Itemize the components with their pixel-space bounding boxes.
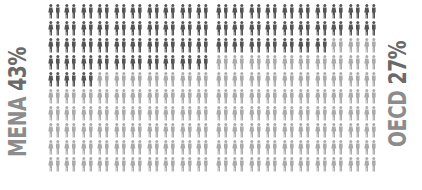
couple-icon: [346, 21, 362, 38]
couple-icon: [346, 123, 362, 140]
couple-icon: [178, 21, 194, 38]
couple-icon: [145, 106, 161, 123]
couple-icon: [112, 89, 128, 106]
couple-icon: [363, 38, 379, 55]
couple-icon: [178, 4, 194, 21]
couple-icon: [162, 89, 178, 106]
couple-icon: [195, 89, 211, 106]
couple-icon: [346, 55, 362, 72]
couple-icon: [330, 72, 346, 89]
couple-icon: [96, 72, 112, 89]
couple-icon: [178, 89, 194, 106]
couple-icon: [79, 72, 95, 89]
couple-icon: [280, 106, 296, 123]
couple-icon: [96, 140, 112, 157]
couple-icon: [280, 38, 296, 55]
couple-icon: [46, 4, 62, 21]
couple-icon: [178, 38, 194, 55]
couple-icon: [231, 123, 247, 140]
couple-icon: [363, 72, 379, 89]
couple-icon: [346, 89, 362, 106]
couple-icon: [330, 157, 346, 174]
couple-icon: [195, 140, 211, 157]
couple-icon: [214, 72, 230, 89]
oecd-percent-text: 27%: [384, 41, 412, 85]
mena-region-text: MENA: [4, 97, 32, 157]
couple-icon: [195, 157, 211, 174]
couple-icon: [280, 72, 296, 89]
couple-icon: [162, 4, 178, 21]
couple-icon: [63, 55, 79, 72]
couple-icon: [162, 55, 178, 72]
couple-icon: [63, 72, 79, 89]
oecd-pictogram-grid: [214, 4, 379, 174]
mena-pictogram-grid: [46, 4, 211, 174]
couple-icon: [145, 89, 161, 106]
couple-icon: [79, 140, 95, 157]
couple-icon: [231, 38, 247, 55]
mena-percent-text: 43%: [4, 47, 32, 91]
mena-label: MENA 43%: [6, 47, 30, 157]
couple-icon: [346, 72, 362, 89]
couple-icon: [162, 21, 178, 38]
couple-icon: [178, 140, 194, 157]
couple-icon: [46, 157, 62, 174]
couple-icon: [63, 123, 79, 140]
couple-icon: [178, 72, 194, 89]
couple-icon: [280, 140, 296, 157]
couple-icon: [129, 123, 145, 140]
couple-icon: [313, 106, 329, 123]
couple-icon: [247, 72, 263, 89]
couple-icon: [363, 123, 379, 140]
couple-icon: [247, 21, 263, 38]
couple-icon: [63, 106, 79, 123]
couple-icon: [330, 55, 346, 72]
couple-icon: [280, 55, 296, 72]
couple-icon: [297, 106, 313, 123]
couple-icon: [313, 4, 329, 21]
couple-icon: [313, 89, 329, 106]
couple-icon: [162, 157, 178, 174]
couple-icon: [247, 38, 263, 55]
couple-icon: [214, 89, 230, 106]
couple-icon: [178, 123, 194, 140]
couple-icon: [346, 106, 362, 123]
couple-icon: [346, 4, 362, 21]
couple-icon: [79, 89, 95, 106]
couple-icon: [162, 38, 178, 55]
couple-icon: [129, 21, 145, 38]
couple-icon: [264, 140, 280, 157]
couple-icon: [264, 55, 280, 72]
couple-icon: [162, 106, 178, 123]
couple-icon: [129, 106, 145, 123]
couple-icon: [247, 55, 263, 72]
couple-icon: [129, 38, 145, 55]
couple-icon: [297, 21, 313, 38]
couple-icon: [112, 72, 128, 89]
couple-icon: [195, 106, 211, 123]
couple-icon: [214, 38, 230, 55]
couple-icon: [112, 123, 128, 140]
couple-icon: [46, 72, 62, 89]
couple-icon: [112, 55, 128, 72]
couple-icon: [195, 21, 211, 38]
couple-icon: [231, 106, 247, 123]
couple-icon: [214, 140, 230, 157]
couple-icon: [313, 123, 329, 140]
couple-icon: [145, 72, 161, 89]
couple-icon: [231, 72, 247, 89]
couple-icon: [247, 140, 263, 157]
couple-icon: [363, 55, 379, 72]
couple-icon: [363, 157, 379, 174]
couple-icon: [145, 55, 161, 72]
couple-icon: [96, 157, 112, 174]
couple-icon: [195, 55, 211, 72]
couple-icon: [162, 123, 178, 140]
couple-icon: [96, 55, 112, 72]
couple-icon: [231, 55, 247, 72]
couple-icon: [297, 4, 313, 21]
couple-icon: [46, 106, 62, 123]
couple-icon: [363, 21, 379, 38]
couple-icon: [264, 106, 280, 123]
couple-icon: [247, 106, 263, 123]
